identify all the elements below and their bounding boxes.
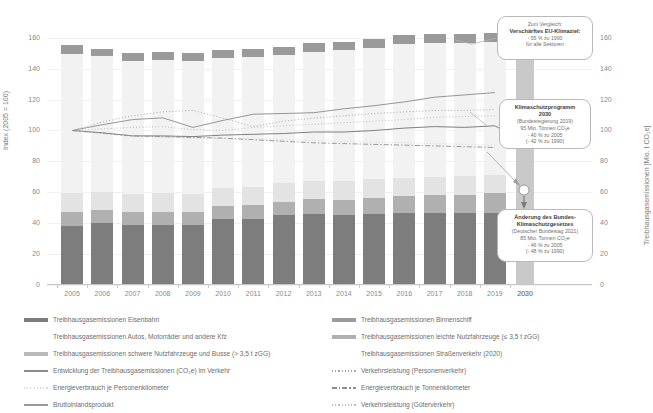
x-tick-mark <box>178 285 179 288</box>
x-tick-label: 2012 <box>267 290 301 297</box>
legend-marker-icon <box>332 384 356 392</box>
x-tick-label: 2009 <box>176 290 210 297</box>
callout-bksg-line6: (- 48 % zu 1990) <box>503 248 587 255</box>
y-axis-left-title: Index (2005 = 100) <box>2 91 9 150</box>
legend-column-left: Treibhausgasemissionen EisenbahnTreibhau… <box>24 312 332 413</box>
legend-marker-icon <box>24 350 48 358</box>
legend-marker-icon <box>24 367 48 375</box>
callout-bundesklimaschutzgesetz: Änderung des Bundes- Klimaschutzgesetzes… <box>497 209 593 262</box>
y-tick-label-left: 20 <box>14 250 40 257</box>
x-tick-label: 2013 <box>297 290 331 297</box>
y-tick-label-left: 0 <box>14 281 40 288</box>
legend-item[interactable]: Treibhausgasemissionen Eisenbahn <box>24 312 332 329</box>
x-tick-mark <box>419 285 420 288</box>
legend-item[interactable]: Treibhausgasemissionen Autos, Motorräder… <box>24 329 332 346</box>
chart-legend: Treibhausgasemissionen EisenbahnTreibhau… <box>24 312 640 402</box>
x-tick-mark <box>87 285 88 288</box>
y-tick-label-right: 0 <box>600 281 626 288</box>
legend-marker-icon <box>332 401 356 409</box>
legend-label: Energieverbrauch je Personenkilometer <box>53 382 169 393</box>
x-tick-label: 2016 <box>387 290 421 297</box>
x-tick-label: 2005 <box>55 290 89 297</box>
y-tick-label-left: 120 <box>14 96 40 103</box>
x-tick-mark <box>57 285 58 288</box>
legend-item[interactable]: Treibhausgasemissionen Binnenschiff <box>332 312 640 329</box>
legend-marker-icon <box>24 333 48 341</box>
legend-label: Treibhausgasemissionen Binnenschiff <box>361 314 472 325</box>
y-tick-label-left: 60 <box>14 188 40 195</box>
y-tick-label-right: 20 <box>600 250 626 257</box>
y-tick-label-right: 40 <box>600 219 626 226</box>
y-tick-label-left: 100 <box>14 126 40 133</box>
y-tick-label-left: 160 <box>14 34 40 41</box>
legend-item[interactable]: Treibhausgasemissionen Straßenverkehr (2… <box>332 346 640 363</box>
y-tick-label-left: 40 <box>14 219 40 226</box>
callout-eu-line4: für alle Sektoren <box>503 41 587 48</box>
y-tick-label-right: 80 <box>600 157 626 164</box>
callout-bksg-line3: (Deutscher Bundestag 2021) <box>503 228 587 235</box>
line-series <box>72 131 495 146</box>
callout-eu-line3: - 55 % zu 1990 <box>503 35 587 42</box>
y-tick-label-right: 120 <box>600 96 626 103</box>
y-tick-label-right: 60 <box>600 188 626 195</box>
y-axis-right-title: Treibhausgasemissionen [Mio. t CO₂e] <box>643 125 650 245</box>
legend-marker-icon <box>24 401 48 409</box>
y-tick-label-right: 100 <box>600 126 626 133</box>
legend-label: Verkehrsleistung (Personenverkehr) <box>361 365 466 376</box>
legend-marker-icon <box>332 350 356 358</box>
legend-item[interactable]: Verkehrsleistung (Güterverkehr) <box>332 397 640 413</box>
x-tick-label: 2010 <box>206 290 240 297</box>
callout-ksp-line4: 95 Mio. Tonnen CO₂e <box>505 125 585 132</box>
x-tick-label: 2006 <box>85 290 119 297</box>
x-tick-label: 2007 <box>116 290 150 297</box>
x-tick-mark <box>268 285 269 288</box>
callout-ksp-line1: Klimaschutzprogramm <box>505 104 585 111</box>
x-tick-label: 2011 <box>236 290 270 297</box>
legend-marker-icon <box>24 384 48 392</box>
legend-marker-icon <box>332 333 356 341</box>
legend-label: Entwicklung der Treibhausgasemissionen (… <box>53 365 230 376</box>
x-tick-label: 2018 <box>448 290 482 297</box>
legend-item[interactable]: Treibhausgasemissionen leichte Nutzfahrz… <box>332 329 640 346</box>
callout-ksp-line6: (- 42 % zu 1990) <box>505 138 585 145</box>
legend-marker-icon <box>24 316 48 324</box>
x-tick-label: 2008 <box>146 290 180 297</box>
callout-eu-line2: Verschärftes EU-Klimaziel: <box>503 28 587 35</box>
legend-marker-icon <box>332 367 356 375</box>
legend-item[interactable]: Bruttoinlandsprodukt <box>24 397 332 413</box>
callout-bksg-line4: 85 Mio. Tonnen CO₂e <box>503 235 587 242</box>
x-tick-mark <box>450 285 451 288</box>
legend-item[interactable]: Treibhausgasemissionen schwere Nutzfahrz… <box>24 346 332 363</box>
y-tick-label-left: 140 <box>14 65 40 72</box>
legend-label: Treibhausgasemissionen Eisenbahn <box>53 314 159 325</box>
y-tick-label-right: 140 <box>600 65 626 72</box>
legend-label: Verkehrsleistung (Güterverkehr) <box>361 399 454 410</box>
legend-label: Treibhausgasemissionen Straßenverkehr (2… <box>361 348 502 359</box>
x-tick-label: 2015 <box>357 290 391 297</box>
legend-label: Treibhausgasemissionen schwere Nutzfahrz… <box>53 348 270 359</box>
x-tick-label: 2017 <box>418 290 452 297</box>
legend-label: Treibhausgasemissionen Autos, Motorräder… <box>53 331 227 342</box>
callout-ksp-line2: 2030 <box>505 111 585 118</box>
legend-item[interactable]: Energieverbrauch je Tonnenkilometer <box>332 380 640 397</box>
legend-item[interactable]: Verkehrsleistung (Personenverkehr) <box>332 363 640 380</box>
x-tick-mark <box>510 285 511 288</box>
x-tick-mark <box>480 285 481 288</box>
legend-label: Energieverbrauch je Tonnenkilometer <box>361 382 470 393</box>
x-tick-mark <box>329 285 330 288</box>
legend-item[interactable]: Entwicklung der Treibhausgasemissionen (… <box>24 363 332 380</box>
y-tick-label-right: 160 <box>600 34 626 41</box>
x-tick-mark <box>299 285 300 288</box>
callout-bksg-line1: Änderung des Bundes- <box>503 214 587 221</box>
x-tick-mark <box>389 285 390 288</box>
line-series <box>72 116 495 131</box>
x-tick-mark <box>359 285 360 288</box>
x-tick-mark <box>238 285 239 288</box>
x-tick-label: 2019 <box>478 290 512 297</box>
legend-column-right: Treibhausgasemissionen BinnenschiffTreib… <box>332 312 640 413</box>
callout-bksg-line5: - 46 % zu 2005 <box>503 242 587 249</box>
legend-label: Treibhausgasemissionen leichte Nutzfahrz… <box>361 331 540 342</box>
x-tick-mark <box>117 285 118 288</box>
legend-item[interactable]: Energieverbrauch je Personenkilometer <box>24 380 332 397</box>
